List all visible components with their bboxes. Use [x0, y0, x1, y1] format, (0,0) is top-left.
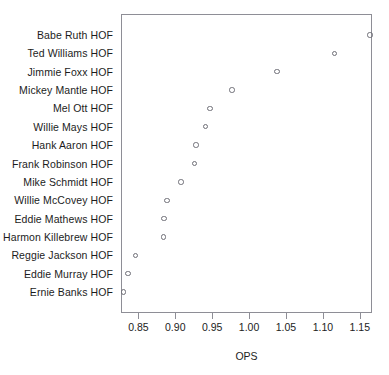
x-tick-mark: [323, 313, 324, 319]
x-tick-mark: [175, 313, 176, 319]
category-label: Mickey Mantle HOF: [19, 85, 113, 96]
category-label: Willie McCovey HOF: [14, 195, 113, 206]
category-label: Ernie Banks HOF: [30, 287, 113, 298]
x-tick-mark: [138, 313, 139, 319]
x-tick-mark: [360, 313, 361, 319]
x-tick-label: 1.15: [350, 322, 370, 333]
x-tick-mark: [286, 313, 287, 319]
category-label: Jimmie Foxx HOF: [28, 66, 114, 77]
category-axis: Babe Ruth HOFTed Williams HOFJimmie Foxx…: [0, 14, 117, 313]
category-label: Mel Ott HOF: [53, 103, 113, 114]
ops-dot-plot: Babe Ruth HOFTed Williams HOFJimmie Foxx…: [0, 0, 389, 375]
category-label: Eddie Mathews HOF: [14, 213, 113, 224]
category-label: Reggie Jackson HOF: [11, 250, 113, 261]
category-label: Eddie Murray HOF: [24, 268, 113, 279]
x-tick-label: 1.05: [276, 322, 296, 333]
category-label: Harmon Killebrew HOF: [3, 232, 113, 243]
x-tick-mark: [249, 313, 250, 319]
x-axis-title: OPS: [121, 351, 372, 362]
category-label: Frank Robinson HOF: [12, 158, 113, 169]
category-label: Willie Mays HOF: [33, 122, 113, 133]
x-tick-label: 0.85: [128, 322, 148, 333]
category-label: Babe Ruth HOF: [37, 30, 113, 41]
x-tick-label: 1.10: [313, 322, 333, 333]
x-tick-label: 0.90: [165, 322, 185, 333]
x-tick-mark: [212, 313, 213, 319]
x-tick-label: 1.00: [239, 322, 259, 333]
x-tick-label: 0.95: [202, 322, 222, 333]
plot-frame: [121, 14, 372, 313]
category-label: Hank Aaron HOF: [32, 140, 113, 151]
category-label: Ted Williams HOF: [27, 48, 113, 59]
category-label: Mike Schmidt HOF: [23, 177, 113, 188]
